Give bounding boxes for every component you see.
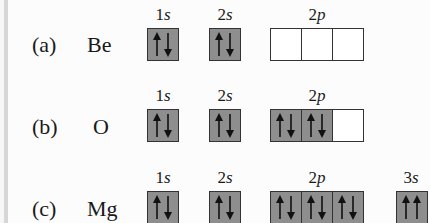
element-symbol: O xyxy=(93,116,109,138)
electron-arrows-icon xyxy=(210,192,240,223)
orbital-box-paired xyxy=(332,191,364,223)
row-tag: (c) xyxy=(32,198,56,220)
orbital-box-parallel xyxy=(396,191,428,223)
orbital-2s xyxy=(209,191,241,223)
orbital-box-empty xyxy=(332,28,364,61)
row-b-o: (b) O 1s 2s 2p xyxy=(0,81,430,141)
subshell-label-2s: 2s xyxy=(205,87,245,104)
electron-arrows-icon xyxy=(397,192,427,223)
electron-arrows-icon xyxy=(302,110,332,141)
orbital-1s xyxy=(147,109,179,142)
electron-arrows-icon xyxy=(210,29,240,60)
electron-arrows-icon xyxy=(210,110,240,141)
electron-arrows-icon xyxy=(148,110,178,141)
subshell-label-2p: 2p xyxy=(297,6,337,23)
orbital-box-paired xyxy=(301,191,333,223)
orbital-box-paired xyxy=(209,191,241,223)
orbital-box-paired xyxy=(270,109,302,142)
subshell-label-2p: 2p xyxy=(297,169,337,186)
row-tag: (b) xyxy=(32,116,58,138)
orbital-box-paired xyxy=(147,28,179,61)
electron-arrows-icon xyxy=(148,29,178,60)
orbital-box-paired xyxy=(147,109,179,142)
row-c-mg: (c) Mg 1s 2s 2p xyxy=(0,162,430,222)
row-a-be: (a) Be 1s 2s 2p xyxy=(0,0,430,60)
orbital-box-paired xyxy=(270,191,302,223)
orbital-box-paired xyxy=(209,28,241,61)
orbital-2p xyxy=(270,28,364,61)
orbital-box-paired xyxy=(209,109,241,142)
orbital-box-empty xyxy=(301,28,333,61)
electron-arrows-icon xyxy=(148,192,178,223)
electron-arrows-icon xyxy=(333,192,363,223)
orbital-box-paired xyxy=(147,191,179,223)
row-tag: (a) xyxy=(32,34,56,56)
orbital-2s xyxy=(209,28,241,61)
orbital-box-empty xyxy=(332,109,364,142)
subshell-label-1s: 1s xyxy=(143,6,183,23)
electron-arrows-icon xyxy=(271,110,301,141)
element-symbol: Be xyxy=(87,34,111,56)
orbital-2s xyxy=(209,109,241,142)
orbital-1s xyxy=(147,28,179,61)
orbital-1s xyxy=(147,191,179,223)
orbital-box-empty xyxy=(270,28,302,61)
subshell-label-1s: 1s xyxy=(143,87,183,104)
electron-arrows-icon xyxy=(271,192,301,223)
orbital-3s xyxy=(396,191,428,223)
electron-arrows-icon xyxy=(302,192,332,223)
subshell-label-1s: 1s xyxy=(143,169,183,186)
subshell-label-2s: 2s xyxy=(205,6,245,23)
subshell-label-3s: 3s xyxy=(391,169,430,186)
orbital-box-paired xyxy=(301,109,333,142)
orbital-2p xyxy=(270,109,364,142)
subshell-label-2p: 2p xyxy=(297,87,337,104)
subshell-label-2s: 2s xyxy=(205,169,245,186)
orbital-2p xyxy=(270,191,364,223)
element-symbol: Mg xyxy=(87,198,118,220)
